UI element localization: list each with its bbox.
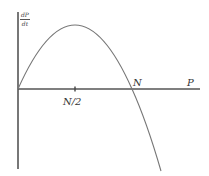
y-axis-label: dP dt bbox=[20, 12, 30, 27]
x-axis-label: P bbox=[187, 78, 194, 88]
growth-curve bbox=[18, 25, 161, 171]
logistic-diagram bbox=[0, 0, 209, 176]
carrying-capacity-label: N bbox=[133, 78, 142, 88]
y-label-numerator: dP bbox=[20, 12, 30, 20]
half-capacity-label: N/2 bbox=[63, 97, 81, 107]
y-label-denominator: dt bbox=[20, 20, 30, 27]
